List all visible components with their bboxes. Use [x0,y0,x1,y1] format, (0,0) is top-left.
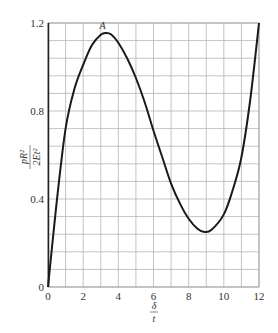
y-axis-label-numerator: pR² [18,149,29,165]
x-tick-label: 4 [116,290,122,302]
annotation-label: A [98,20,106,31]
y-tick-label: 1.2 [30,17,44,29]
x-tick-label: 8 [186,290,192,302]
x-tick-label: 0 [45,290,51,302]
y-tick-label: 0.4 [30,193,44,205]
y-tick-label: 0 [39,281,45,293]
x-tick-label: 10 [218,290,230,302]
y-axis-label: pR² 2Et² [18,145,42,169]
y-axis-label-denominator: 2Et² [31,148,42,166]
chart: 024681012 00.40.81.2 pR² 2Et² δ t A [0,0,278,333]
x-axis-label-numerator: δ [152,300,157,311]
y-tick-label: 0.8 [30,105,44,117]
x-axis-label: δ t [150,300,158,324]
x-tick-label: 12 [254,290,265,302]
x-axis-label-denominator: t [153,313,156,324]
annotations: A [98,20,106,31]
grid [48,23,259,287]
x-tick-label: 2 [80,290,86,302]
